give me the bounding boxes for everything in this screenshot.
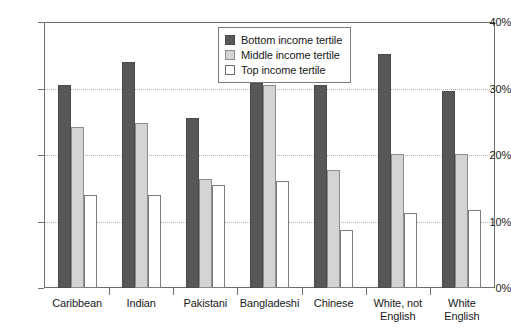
legend-swatch-bottom-icon xyxy=(225,35,235,45)
x-axis-tick-label: White, not English xyxy=(374,297,423,323)
legend-item[interactable]: Middle income tertile xyxy=(225,47,342,62)
bar[interactable] xyxy=(84,195,97,288)
legend: Bottom income tertile Middle income tert… xyxy=(218,27,351,83)
x-axis-tick-label: Pakistani xyxy=(183,297,227,310)
bar[interactable] xyxy=(135,123,148,288)
bar[interactable] xyxy=(314,85,327,288)
bar-group xyxy=(45,23,109,288)
bar[interactable] xyxy=(378,54,391,288)
x-axis-tick-mark xyxy=(430,288,431,295)
x-axis-tick-label: Chinese xyxy=(314,297,354,310)
bar-group xyxy=(109,23,173,288)
legend-label-middle: Middle income tertile xyxy=(241,49,340,61)
bar[interactable] xyxy=(327,170,340,288)
legend-label-bottom: Bottom income tertile xyxy=(241,34,342,46)
x-axis-tick-mark xyxy=(366,288,367,295)
x-axis-tick-mark xyxy=(109,288,110,295)
y-axis-tick-mark xyxy=(38,222,44,223)
bar[interactable] xyxy=(276,181,289,288)
y-axis-tick-mark xyxy=(38,288,44,289)
y-axis-tick-mark xyxy=(38,89,44,90)
bar[interactable] xyxy=(71,127,84,288)
bar[interactable] xyxy=(442,91,455,289)
legend-swatch-top-icon xyxy=(225,65,235,75)
y-axis-tick-mark xyxy=(38,155,44,156)
bar[interactable] xyxy=(263,85,276,288)
x-axis-tick-label: White English xyxy=(444,297,479,323)
bar[interactable] xyxy=(391,154,404,288)
bar[interactable] xyxy=(122,62,135,288)
legend-item[interactable]: Top income tertile xyxy=(225,62,342,77)
bar[interactable] xyxy=(58,85,71,288)
legend-swatch-middle-icon xyxy=(225,50,235,60)
bar[interactable] xyxy=(404,213,417,288)
x-axis-tick-mark xyxy=(302,288,303,295)
bar[interactable] xyxy=(455,154,468,288)
x-axis-tick-label: Caribbean xyxy=(52,297,102,310)
bar[interactable] xyxy=(468,210,481,288)
bar[interactable] xyxy=(186,118,199,288)
bar[interactable] xyxy=(199,179,212,288)
bar[interactable] xyxy=(212,185,225,288)
legend-label-top: Top income tertile xyxy=(241,64,325,76)
y-axis-tick-mark xyxy=(38,22,44,23)
x-axis-tick-label: Indian xyxy=(127,297,156,310)
bar[interactable] xyxy=(340,230,353,288)
bar-group xyxy=(430,23,494,288)
bar[interactable] xyxy=(250,83,263,288)
x-axis-tick-mark xyxy=(173,288,174,295)
bar[interactable] xyxy=(148,195,161,288)
x-axis-tick-mark xyxy=(237,288,238,295)
x-axis-tick-label: Bangladeshi xyxy=(240,297,299,310)
bar-chart: 0%10%20%30%40% CaribbeanIndianPakistaniB… xyxy=(0,0,511,330)
bar-group xyxy=(366,23,430,288)
legend-item[interactable]: Bottom income tertile xyxy=(225,32,342,47)
